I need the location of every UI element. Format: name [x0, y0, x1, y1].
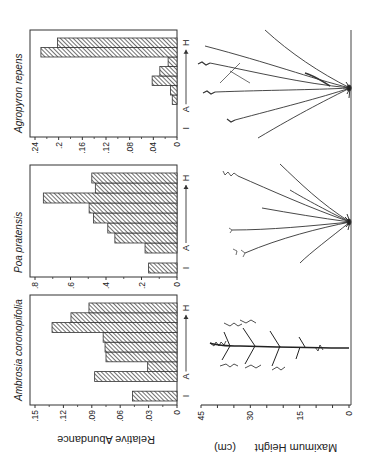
- y-tick-label: 0: [172, 282, 182, 287]
- bar: [57, 38, 177, 48]
- category-label-start: I: [181, 267, 191, 270]
- poa-plant-illustration: [223, 164, 351, 263]
- y-tick-label: .8: [30, 282, 40, 289]
- bar: [106, 352, 177, 362]
- panel-title: Poa pratensis: [13, 212, 24, 273]
- category-label-start: I: [181, 395, 191, 398]
- bar: [94, 213, 177, 223]
- arrow-head-icon: [184, 315, 189, 319]
- bar: [149, 263, 177, 273]
- bar: [103, 332, 177, 342]
- ambrosia-plant-illustration: [210, 320, 349, 370]
- category-label-start: I: [181, 127, 191, 130]
- relative-abundance-axis-title: Relative Abundance: [57, 434, 155, 446]
- bar: [145, 243, 177, 253]
- bar-panel-3: Agropyron repens.24.2.16.12.08.040IAH: [13, 30, 191, 154]
- agropyron-plant-illustration: [198, 30, 351, 138]
- y-tick-label: .09: [87, 410, 97, 422]
- panel-title: Ambrosia coronopifolia: [13, 299, 24, 402]
- y-tick-label: .4: [101, 282, 111, 289]
- figure-canvas: Relative Abundance Ambrosia coronopifoli…: [0, 0, 375, 458]
- category-label-mid: A: [181, 106, 191, 112]
- bar: [170, 86, 177, 96]
- bar: [105, 342, 177, 352]
- y-tick-label: .06: [115, 410, 125, 422]
- figure: Relative Abundance Ambrosia coronopifoli…: [0, 0, 375, 458]
- category-label-mid: A: [181, 373, 191, 379]
- bar: [89, 203, 177, 213]
- bar: [95, 183, 177, 193]
- height-tick-label: 0: [344, 411, 354, 416]
- bar: [115, 233, 177, 243]
- height-axis: 4530150 Maximum Height (cm): [196, 405, 354, 454]
- y-tick-label: .2: [54, 142, 64, 149]
- y-tick-label: .24: [30, 142, 40, 154]
- bar-panel-2: Poa pratensis.8.6.4.20IAH: [13, 165, 191, 289]
- category-label-mid: A: [181, 245, 191, 251]
- bar: [52, 323, 177, 333]
- bar: [133, 391, 177, 401]
- bar: [89, 303, 177, 313]
- bar: [152, 76, 177, 86]
- y-tick-label: .04: [148, 142, 158, 154]
- max-height-axis-title: Maximum Height: [255, 442, 338, 454]
- category-label-end: H: [181, 305, 191, 312]
- bar-panels: Ambrosia coronopifolia.15.12.09.06.030IA…: [13, 30, 191, 422]
- y-tick-label: 0: [172, 410, 182, 415]
- y-tick-label: .03: [144, 410, 154, 422]
- arrow-head-icon: [184, 185, 189, 189]
- height-tick-label: 30: [245, 411, 255, 421]
- y-tick-label: .6: [66, 282, 76, 289]
- y-tick-label: .12: [58, 410, 68, 422]
- y-tick-label: 0: [172, 142, 182, 147]
- panel-title: Agropyron repens: [13, 54, 24, 135]
- y-tick-label: .12: [101, 142, 111, 154]
- y-tick-label: .2: [137, 282, 147, 289]
- height-tick-label: 45: [196, 411, 206, 421]
- arrow-head-icon: [184, 50, 189, 54]
- bar: [95, 372, 177, 382]
- bar: [92, 173, 177, 183]
- bar: [172, 95, 177, 105]
- bar: [168, 57, 177, 67]
- max-height-unit: (cm): [214, 442, 236, 454]
- bar: [160, 67, 177, 77]
- bar-panel-1: Ambrosia coronopifolia.15.12.09.06.030IA…: [13, 295, 191, 422]
- category-label-end: H: [181, 175, 191, 182]
- bar: [71, 313, 177, 323]
- y-tick-label: .15: [30, 410, 40, 422]
- y-tick-label: .16: [77, 142, 87, 154]
- y-tick-label: .08: [125, 142, 135, 154]
- category-label-end: H: [181, 40, 191, 47]
- bar: [148, 362, 177, 372]
- height-tick-label: 15: [295, 411, 305, 421]
- bar: [108, 223, 177, 233]
- bar: [41, 48, 177, 58]
- bar: [43, 193, 177, 203]
